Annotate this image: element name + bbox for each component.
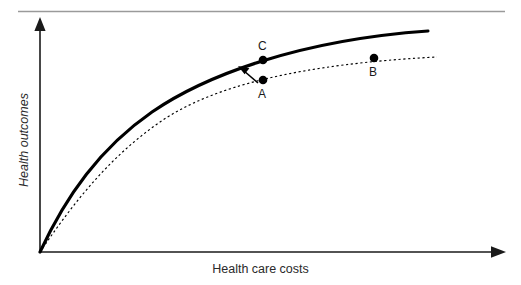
data-point-a: [259, 76, 268, 85]
chart-figure: C A B Health care costs Health outcomes: [0, 0, 521, 285]
data-point-label-a: A: [258, 88, 266, 100]
data-point-c: [259, 56, 268, 65]
x-axis-arrowhead: [491, 246, 506, 258]
y-axis-arrowhead: [34, 17, 45, 31]
y-axis-label: Health outcomes: [17, 70, 31, 210]
data-point-b: [370, 54, 379, 63]
data-point-label-b: B: [369, 66, 377, 78]
series-actual-performance-curve: [40, 57, 437, 252]
x-axis-label: Health care costs: [0, 262, 521, 276]
data-point-label-c: C: [258, 40, 267, 52]
